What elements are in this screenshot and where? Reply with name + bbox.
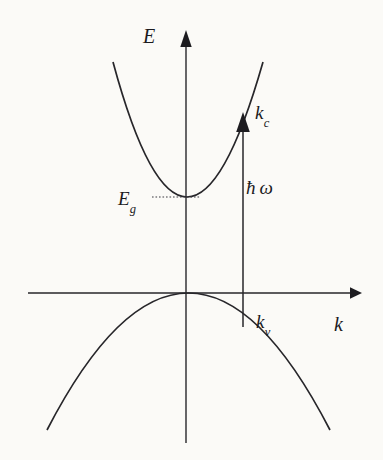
photon-energy-label: ħω <box>246 178 273 197</box>
arrow-up-icon <box>236 112 250 132</box>
valence-state-label-subscript: v <box>265 325 271 339</box>
valence-band-curve <box>47 293 330 430</box>
band-gap-label-base: E <box>118 188 130 209</box>
e-axis-label: E <box>143 26 155 46</box>
arrow-up-icon <box>180 30 191 47</box>
band-gap-label: Eg <box>118 189 136 212</box>
band-diagram-canvas <box>0 0 383 460</box>
band-structure-figure: E k Eg kc kv ħω <box>0 0 383 460</box>
hbar-symbol: ħ <box>246 177 256 198</box>
conduction-state-label: kc <box>255 103 269 126</box>
band-gap-label-subscript: g <box>130 202 136 216</box>
conduction-state-label-subscript: c <box>264 116 270 130</box>
valence-state-label-base: k <box>256 311 264 332</box>
valence-state-label: kv <box>256 312 270 335</box>
conduction-state-label-base: k <box>255 102 263 123</box>
arrow-right-icon <box>350 287 362 299</box>
k-axis-label: k <box>334 314 343 334</box>
omega-symbol: ω <box>260 177 273 198</box>
